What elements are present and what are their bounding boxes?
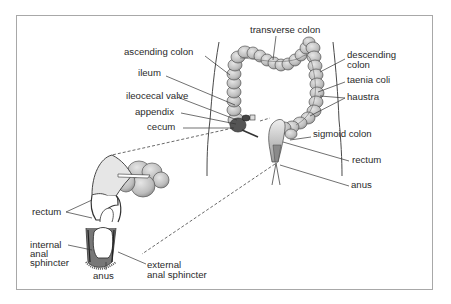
rectum-detail-illustration xyxy=(86,155,169,269)
label-ileum: ileum xyxy=(138,68,161,78)
label-ascending-colon: ascending colon xyxy=(124,47,193,57)
transverse-colon-segments xyxy=(238,37,315,71)
label-ileocecal-valve: ileocecal valve xyxy=(126,91,188,101)
label-sigmoid-colon: sigmoid colon xyxy=(313,129,372,139)
label-taenia-coli: taenia coli xyxy=(347,75,390,85)
label-rectum-detail: rectum xyxy=(32,207,61,217)
label-anus-detail: anus xyxy=(93,271,114,281)
rectum-main xyxy=(269,119,285,185)
label-haustra: haustra xyxy=(347,92,379,102)
label-transverse-colon: transverse colon xyxy=(250,25,320,35)
ascending-colon-segments xyxy=(227,51,245,127)
label-appendix: appendix xyxy=(135,107,174,117)
label-anus-main: anus xyxy=(351,180,372,190)
label-external-anal-sphincter-line2: anal sphincter xyxy=(147,270,207,280)
label-internal-anal-sphincter-line3: sphincter xyxy=(30,258,69,268)
label-rectum-main: rectum xyxy=(352,155,381,165)
label-cecum: cecum xyxy=(147,122,175,132)
label-descending-colon-line2: colon xyxy=(347,60,370,70)
